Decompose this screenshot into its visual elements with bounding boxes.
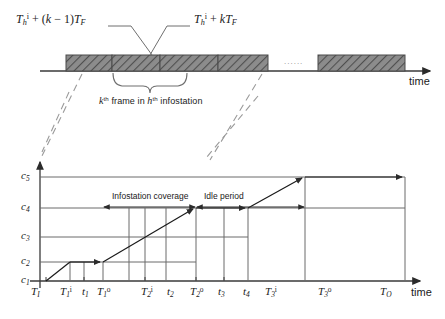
xtick-label-t4: t4 <box>243 286 250 299</box>
frame-brace <box>113 73 187 93</box>
xtick-label-T1o: T1o <box>97 286 111 299</box>
ytick-label-c4: c4 <box>21 201 30 214</box>
figure-root: Thi + (k − 1)TF Thi + kTF kth frame in h… <box>0 0 445 319</box>
xtick-label-T3i: T3i <box>265 286 277 299</box>
annotation-infostation-coverage: Infostation coverage <box>112 192 189 201</box>
top-time-axis-label: time <box>409 76 430 87</box>
projection-line-inner-right <box>206 96 258 158</box>
xtick-label-t2: t2 <box>167 286 174 299</box>
right-marker-label: Thi + kTF <box>194 13 237 27</box>
right-marker-leader <box>150 26 190 55</box>
ytick-label-c5: c5 <box>21 170 30 183</box>
frame-block <box>112 55 160 71</box>
frame-block <box>318 55 405 71</box>
bottom-panel <box>30 162 420 288</box>
xtick-label-T1i: T1i <box>60 286 72 299</box>
xtick-label-t3: t3 <box>218 286 225 299</box>
frame-block <box>66 55 112 71</box>
xtick-label-t1: t1 <box>82 286 89 299</box>
frame-block <box>160 55 218 71</box>
projection-line-right <box>210 74 262 160</box>
ytick-label-c1: c1 <box>21 274 30 287</box>
ytick-label-c3: c3 <box>21 230 30 243</box>
top-panel <box>40 26 430 160</box>
annotation-idle-period: Idle period <box>204 192 244 201</box>
left-marker-label: Thi + (k − 1)TF <box>16 13 86 27</box>
projection-line-left <box>40 74 82 160</box>
left-marker-leader <box>108 26 152 55</box>
figure-canvas <box>0 0 445 319</box>
xtick-label-TI: TI <box>31 286 40 299</box>
xtick-label-TO: TO <box>380 286 392 299</box>
projection-line-inner-left <box>42 92 69 152</box>
x-axis-label: time <box>411 287 432 298</box>
xtick-label-T3o: T3o <box>318 286 332 299</box>
xtick-label-T2i: T2i <box>141 286 153 299</box>
xtick-label-T2o: T2o <box>190 286 204 299</box>
frame-block <box>218 55 268 71</box>
gridlines <box>40 177 405 262</box>
frames-ellipsis: ...... <box>284 58 303 66</box>
frame-blocks <box>66 55 405 71</box>
brace-caption: kth frame in hth infostation <box>99 96 203 106</box>
ytick-label-c2: c2 <box>21 255 30 268</box>
